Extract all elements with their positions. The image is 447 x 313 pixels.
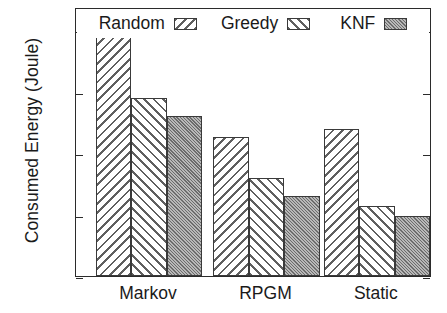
legend-swatch-random-icon xyxy=(174,18,197,30)
legend-swatch-greedy-icon xyxy=(287,18,310,30)
y-tick-mark xyxy=(76,217,83,218)
chart-legend: Random Greedy KNF xyxy=(77,10,429,38)
legend-swatch-knf-icon xyxy=(384,18,407,30)
bar-markov-knf xyxy=(167,116,203,276)
y-tick-mark-right xyxy=(423,94,430,95)
legend-entry-random: Random xyxy=(99,15,197,33)
y-axis-title: Consumed Energy (Joule) xyxy=(22,1,43,281)
y-tick-mark xyxy=(76,94,83,95)
y-tick-mark-right xyxy=(423,278,430,279)
y-tick-mark xyxy=(76,278,83,279)
legend-label-random: Random xyxy=(99,15,165,33)
legend-entry-knf: KNF xyxy=(340,15,407,33)
y-tick-mark xyxy=(76,155,83,156)
bar-rpgm-knf xyxy=(284,196,320,276)
bar-rpgm-random xyxy=(213,137,249,276)
bar-static-random xyxy=(324,129,360,276)
bar-static-knf xyxy=(395,216,431,276)
y-tick-mark-right xyxy=(423,155,430,156)
bar-markov-greedy xyxy=(131,98,167,276)
bar-static-greedy xyxy=(359,206,395,276)
legend-entry-greedy: Greedy xyxy=(221,15,310,33)
plot-area: 05101520 Random Greedy KNF xyxy=(75,8,431,277)
bar-markov-random xyxy=(96,33,132,276)
legend-label-knf: KNF xyxy=(340,15,375,33)
bar-chart-figure: Consumed Energy (Joule) 05101520 Random … xyxy=(0,0,447,313)
bar-rpgm-greedy xyxy=(249,178,285,276)
legend-label-greedy: Greedy xyxy=(221,15,278,33)
x-tick-label-static: Static xyxy=(293,283,447,304)
